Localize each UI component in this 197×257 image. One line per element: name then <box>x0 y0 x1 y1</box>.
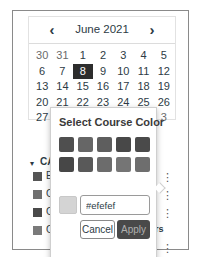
calendar-day[interactable]: 11 <box>133 64 153 80</box>
caret-down-icon[interactable]: ▾ <box>30 159 34 168</box>
kebab-menu-icon[interactable]: ⋮ <box>162 175 166 187</box>
color-swatch[interactable] <box>116 137 131 152</box>
calendar-day[interactable]: 14 <box>52 79 72 95</box>
calendar-day[interactable]: 3 <box>113 48 133 64</box>
kebab-menu-icon[interactable]: ⋮ <box>162 193 166 205</box>
mini-calendar: ‹ June 2021 › 30311234567891011121314151… <box>28 16 176 120</box>
calendar-day[interactable]: 2 <box>93 48 113 64</box>
popover-title: Select Course Color <box>59 116 164 128</box>
calendar-day[interactable]: 5 <box>154 48 174 64</box>
calendar-day[interactable]: 18 <box>133 79 153 95</box>
calendar-day[interactable]: 1 <box>73 48 93 64</box>
calendar-day[interactable]: 31 <box>52 48 72 64</box>
calendar-day[interactable]: 6 <box>32 64 52 80</box>
kebab-menu-icon[interactable]: ⋮ <box>162 246 166 257</box>
calendar-day[interactable]: 4 <box>133 48 153 64</box>
hex-color-input[interactable] <box>80 195 150 215</box>
course-color-square[interactable] <box>33 226 42 235</box>
color-swatch[interactable] <box>78 157 93 172</box>
calendar-day[interactable]: 9 <box>93 64 113 80</box>
calendar-day[interactable]: 16 <box>93 79 113 95</box>
color-swatch-grid <box>59 137 151 177</box>
calendar-week-row: 303112345 <box>32 48 174 64</box>
kebab-menu-icon[interactable]: ⋮ <box>162 211 166 223</box>
calendar-day[interactable]: 30 <box>32 48 52 64</box>
calendar-day[interactable]: 7 <box>52 64 72 80</box>
calendar-day[interactable]: 12 <box>154 64 174 80</box>
calendar-header: ‹ June 2021 › <box>29 17 175 44</box>
calendar-day[interactable]: 17 <box>113 79 133 95</box>
apply-button[interactable]: Apply <box>117 220 150 239</box>
calendar-week-row: 13141516171819 <box>32 79 174 95</box>
calendar-day[interactable]: 15 <box>73 79 93 95</box>
color-swatch[interactable] <box>135 157 150 172</box>
swatch-row <box>59 157 151 172</box>
next-month-chevron-icon[interactable]: › <box>145 22 159 38</box>
color-swatch[interactable] <box>135 137 150 152</box>
color-swatch[interactable] <box>97 157 112 172</box>
calendar-day[interactable]: 13 <box>32 79 52 95</box>
color-swatch[interactable] <box>59 157 74 172</box>
color-swatch[interactable] <box>59 137 74 152</box>
swatch-row <box>59 137 151 152</box>
calendar-day-selected[interactable]: 8 <box>73 64 93 80</box>
color-swatch[interactable] <box>78 137 93 152</box>
cancel-button[interactable]: Cancel <box>80 220 115 239</box>
course-color-square[interactable] <box>33 208 42 217</box>
course-color-popover: Select Course Color Cancel Apply <box>50 107 157 257</box>
calendar-day[interactable]: 19 <box>154 79 174 95</box>
course-color-square[interactable] <box>33 190 42 199</box>
calendar-week-row: 6789101112 <box>32 64 174 80</box>
color-swatch[interactable] <box>97 137 112 152</box>
calendar-day[interactable]: 10 <box>113 64 133 80</box>
color-swatch[interactable] <box>116 157 131 172</box>
course-color-square[interactable] <box>33 172 42 181</box>
color-preview-swatch <box>59 196 77 214</box>
